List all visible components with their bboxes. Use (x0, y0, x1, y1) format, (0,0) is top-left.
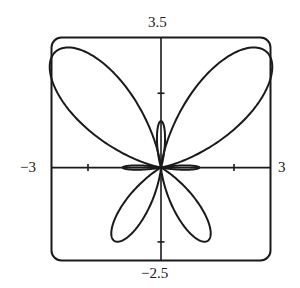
petal-lower-left (111, 168, 161, 242)
axes (52, 38, 271, 261)
y-min-label: −2.5 (141, 266, 168, 281)
y-max-label: 3.5 (148, 15, 167, 30)
petal-upper-right (161, 47, 272, 167)
x-min-label: −3 (20, 160, 36, 175)
petal-upper-left (50, 47, 161, 167)
petal-lower-right (161, 168, 211, 242)
x-max-label: 3 (278, 160, 286, 175)
polar-plot (0, 0, 300, 288)
